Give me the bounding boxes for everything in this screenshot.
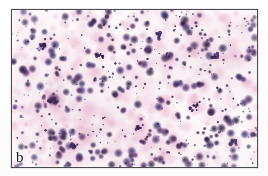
figure-page: b bbox=[0, 0, 268, 176]
micrograph-image bbox=[12, 10, 257, 167]
panel-label: b bbox=[16, 150, 24, 165]
micrograph-figure-panel: b bbox=[11, 9, 258, 168]
micrograph-canvas bbox=[12, 10, 257, 167]
